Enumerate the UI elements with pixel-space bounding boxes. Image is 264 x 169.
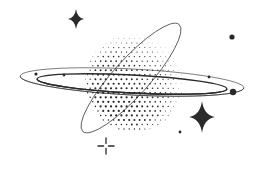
sparkle-cross-icon bbox=[98, 138, 114, 154]
sparkle-star-icon bbox=[189, 101, 215, 133]
planet-illustration bbox=[0, 0, 264, 169]
halftone-planet bbox=[84, 34, 181, 130]
sparkle-icons bbox=[68, 9, 215, 154]
sparkle-star-icon bbox=[68, 9, 84, 29]
